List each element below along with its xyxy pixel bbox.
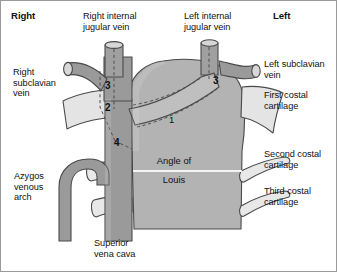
anatomy-diagram-frame: Right Left Right internal jugular vein L… xyxy=(0,0,337,272)
sternal-angle-line-2-text: Louis xyxy=(138,175,210,186)
heading-left: Left xyxy=(273,11,290,22)
anatomy-illustration xyxy=(1,1,337,272)
marker-4: 4 xyxy=(114,138,120,148)
label-left-internal-jugular-vein: Left internal jugular vein xyxy=(184,11,231,32)
label-azygos-venous-arch: Azygos venous arch xyxy=(14,171,44,203)
label-first-costal-cartilage: First costal cartilage xyxy=(264,90,308,111)
marker-2: 2 xyxy=(105,103,111,113)
svc-highlight xyxy=(105,99,111,241)
sternal-angle-line-1: Angle of xyxy=(138,156,210,167)
right-subclavian-vein-lumen xyxy=(64,62,73,75)
label-left-subclavian-vein: Left subclavian vein xyxy=(264,59,325,80)
label-superior-vena-cava: Superior vena cava xyxy=(94,238,135,259)
left-internal-jugular-vein-lumen xyxy=(201,40,218,47)
left-subclavian-vein xyxy=(219,61,257,79)
label-second-costal-cartilage: Second costal cartilage xyxy=(264,149,321,170)
left-subclavian-vein-lumen xyxy=(252,65,260,78)
right-subclavian-vein xyxy=(67,63,107,91)
label-right-internal-jugular-vein: Right internal jugular vein xyxy=(83,11,136,32)
marker-3-right: 3 xyxy=(105,81,111,91)
label-right-subclavian-vein: Right subclavian vein xyxy=(13,67,56,99)
label-third-costal-cartilage: Third costal cartilage xyxy=(264,186,311,207)
heading-right: Right xyxy=(11,11,35,22)
marker-3-left: 3 xyxy=(213,76,219,86)
marker-1: 1 xyxy=(169,115,174,125)
mediastinum-body xyxy=(130,59,245,229)
right-internal-jugular-vein-lumen xyxy=(105,42,123,49)
